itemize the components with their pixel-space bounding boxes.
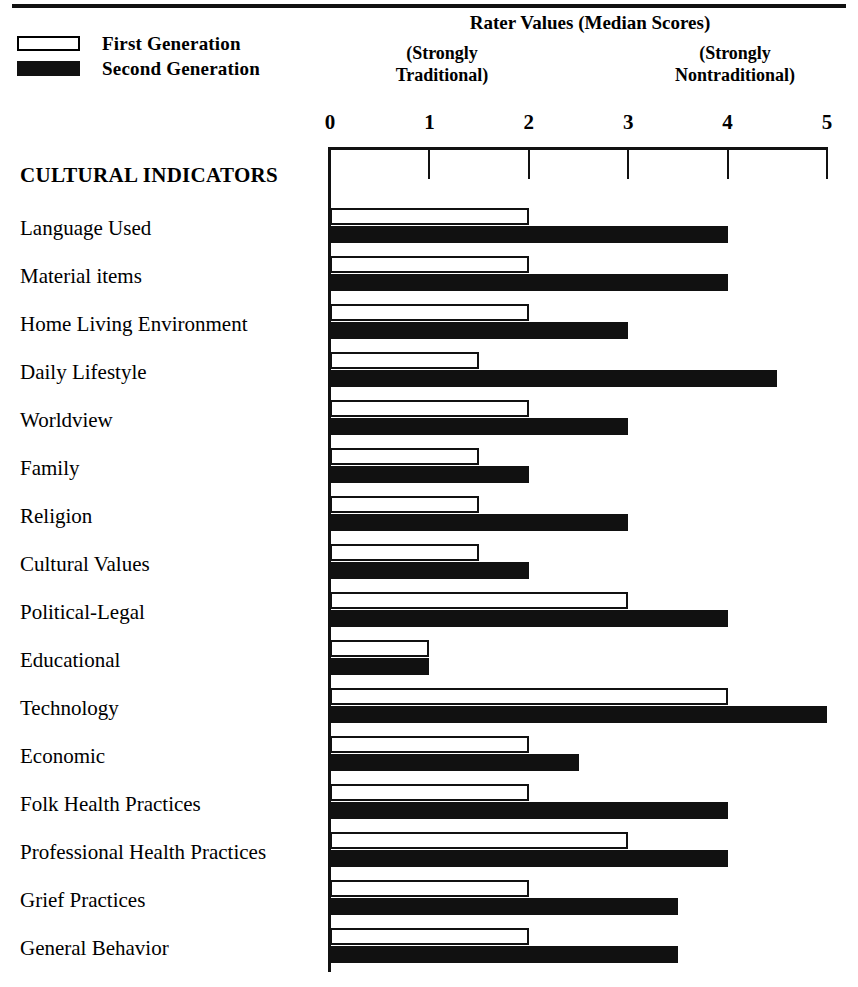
bar-row: Daily Lifestyle [0, 349, 858, 397]
bar-second-generation [330, 658, 429, 675]
bar-second-generation [330, 322, 628, 339]
bar-second-generation [330, 466, 529, 483]
bar-group [330, 349, 858, 397]
bar-row: Technology [0, 685, 858, 733]
bar-row: Educational [0, 637, 858, 685]
bar-row: Material items [0, 253, 858, 301]
x-axis-tick-label-5: 5 [807, 110, 847, 135]
bar-group [330, 781, 858, 829]
x-axis-tick-label-1: 1 [409, 110, 449, 135]
bar-first-generation [330, 784, 529, 801]
bar-group [330, 397, 858, 445]
category-label: Folk Health Practices [20, 792, 201, 817]
bar-first-generation [330, 208, 529, 225]
bar-row: Grief Practices [0, 877, 858, 925]
bar-first-generation [330, 352, 479, 369]
category-label: Language Used [20, 216, 151, 241]
x-axis-line [328, 147, 828, 150]
bar-row: General Behavior [0, 925, 858, 973]
category-label: Worldview [20, 408, 113, 433]
bar-first-generation [330, 496, 479, 513]
x-axis-tick-1 [428, 149, 430, 179]
bar-group [330, 829, 858, 877]
plot-area: 012345 CULTURAL INDICATORS Language Used… [0, 0, 858, 987]
category-label: Home Living Environment [20, 312, 247, 337]
x-axis-tick-label-4: 4 [708, 110, 748, 135]
bar-first-generation [330, 400, 529, 417]
category-label: Political-Legal [20, 600, 145, 625]
x-axis-tick-label-3: 3 [608, 110, 648, 135]
x-axis-tick-4 [727, 149, 729, 179]
x-axis-tick-label-0: 0 [310, 110, 350, 135]
bar-row: Political-Legal [0, 589, 858, 637]
category-label: Religion [20, 504, 92, 529]
bar-second-generation [330, 850, 728, 867]
bar-first-generation [330, 832, 628, 849]
bar-first-generation [330, 544, 479, 561]
bar-first-generation [330, 688, 728, 705]
category-label: Grief Practices [20, 888, 145, 913]
bar-rows: Language UsedMaterial itemsHome Living E… [0, 205, 858, 973]
bar-second-generation [330, 562, 529, 579]
bar-second-generation [330, 946, 678, 963]
category-label: Family [20, 456, 80, 481]
bar-first-generation [330, 880, 529, 897]
x-axis-tick-label-2: 2 [509, 110, 549, 135]
bar-second-generation [330, 274, 728, 291]
bar-group [330, 253, 858, 301]
bar-group [330, 733, 858, 781]
x-axis-tick-2 [528, 149, 530, 179]
bar-first-generation [330, 736, 529, 753]
bar-first-generation [330, 304, 529, 321]
bar-group [330, 301, 858, 349]
bar-first-generation [330, 928, 529, 945]
bar-group [330, 637, 858, 685]
bar-second-generation [330, 898, 678, 915]
bar-row: Language Used [0, 205, 858, 253]
bar-group [330, 541, 858, 589]
bar-second-generation [330, 802, 728, 819]
bar-group [330, 589, 858, 637]
section-heading-cultural-indicators: CULTURAL INDICATORS [20, 163, 278, 188]
bar-row: Professional Health Practices [0, 829, 858, 877]
bar-second-generation [330, 706, 827, 723]
bar-second-generation [330, 754, 579, 771]
x-axis-tick-3 [627, 149, 629, 179]
bar-row: Home Living Environment [0, 301, 858, 349]
bar-group [330, 493, 858, 541]
bar-row: Family [0, 445, 858, 493]
bar-group [330, 925, 858, 973]
category-label: General Behavior [20, 936, 169, 961]
bar-second-generation [330, 226, 728, 243]
bar-first-generation [330, 256, 529, 273]
category-label: Professional Health Practices [20, 840, 266, 865]
bar-group [330, 445, 858, 493]
bar-second-generation [330, 610, 728, 627]
bar-row: Economic [0, 733, 858, 781]
bar-second-generation [330, 514, 628, 531]
category-label: Material items [20, 264, 142, 289]
category-label: Daily Lifestyle [20, 360, 147, 385]
bar-first-generation [330, 640, 429, 657]
bar-group [330, 685, 858, 733]
bar-group [330, 877, 858, 925]
bar-row: Religion [0, 493, 858, 541]
category-label: Economic [20, 744, 105, 769]
bar-row: Worldview [0, 397, 858, 445]
x-axis-tick-5 [826, 149, 828, 179]
x-axis-tick-0 [329, 149, 331, 179]
category-label: Technology [20, 696, 119, 721]
bar-second-generation [330, 370, 777, 387]
bar-row: Cultural Values [0, 541, 858, 589]
category-label: Cultural Values [20, 552, 150, 577]
bar-group [330, 205, 858, 253]
bar-second-generation [330, 418, 628, 435]
bar-first-generation [330, 592, 628, 609]
category-label: Educational [20, 648, 120, 673]
bar-row: Folk Health Practices [0, 781, 858, 829]
bar-first-generation [330, 448, 479, 465]
